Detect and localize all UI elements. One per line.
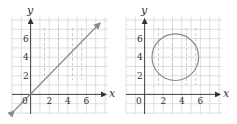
right-y-tick-6: 6 — [137, 34, 143, 44]
right-x-axis-label: x — [223, 87, 230, 100]
left-y-tick-2: 2 — [23, 71, 29, 81]
right-y-axis-label: y — [140, 4, 148, 17]
left-x-tick-2: 2 — [47, 96, 53, 106]
left-x-tick-6: 6 — [84, 96, 90, 106]
left-y-axis-label: y — [26, 4, 34, 17]
left-origin-label: 0 — [22, 96, 28, 106]
right-x-tick-6: 6 — [198, 96, 204, 106]
right-plot: y x 0 2 4 6 2 4 6 — [126, 4, 230, 114]
left-x-tick-4: 4 — [65, 96, 71, 106]
right-y-tick-2: 2 — [137, 71, 143, 81]
right-x-tick-2: 2 — [161, 96, 167, 106]
right-origin-label: 0 — [136, 96, 142, 106]
diagram-canvas: y x 0 2 4 6 2 4 6 — [0, 0, 237, 124]
left-y-tick-6: 6 — [23, 34, 29, 44]
left-x-axis-label: x — [109, 87, 116, 100]
left-dashed-lines — [45, 28, 82, 80]
right-y-tick-4: 4 — [137, 52, 143, 62]
left-y-tick-4: 4 — [23, 52, 29, 62]
right-x-tick-4: 4 — [179, 96, 185, 106]
left-plot: y x 0 2 4 6 2 4 6 — [12, 4, 116, 114]
